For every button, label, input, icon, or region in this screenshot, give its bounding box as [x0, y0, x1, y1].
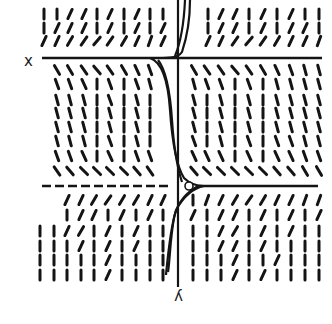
slope-segment [247, 79, 250, 88]
slope-segment [136, 122, 139, 132]
slope-segment [193, 95, 196, 105]
x-axis-label: x [24, 52, 33, 70]
slope-segment [94, 37, 100, 45]
slope-segment [203, 167, 210, 174]
slope-segment [233, 255, 237, 264]
slope-segment [219, 241, 223, 250]
slope-segment [192, 66, 197, 75]
slope-segment [149, 79, 152, 89]
slope-segment [245, 167, 252, 174]
slope-segment [81, 37, 87, 45]
slope-segment [304, 65, 307, 75]
slope-segment [107, 37, 113, 45]
slope-segment [288, 167, 294, 175]
slope-segment [147, 167, 153, 175]
slope-segment [289, 9, 293, 18]
slope-segment [276, 79, 279, 89]
slope-segment [161, 195, 165, 204]
slope-segment [82, 9, 86, 18]
slope-segment [81, 66, 87, 74]
slope-segment [246, 196, 252, 204]
slope-segment [289, 23, 293, 32]
slope-segment [122, 37, 127, 46]
slope-segment [247, 136, 250, 145]
slope-segment [318, 65, 321, 75]
slope-segment [191, 210, 195, 219]
slope-segment [289, 136, 292, 145]
slope-segment [82, 23, 86, 32]
slope-segment [317, 36, 320, 45]
slope-segment [261, 270, 265, 279]
slope-segment [79, 241, 83, 250]
slope-segment [233, 270, 237, 279]
slope-segment [261, 226, 265, 235]
slope-segment [219, 23, 223, 32]
slope-segment [148, 151, 151, 160]
slope-segment [92, 210, 96, 219]
slope-segment [136, 108, 139, 118]
slope-segment [205, 195, 208, 204]
slope-segment [67, 167, 73, 175]
slope-segment [261, 66, 266, 75]
slope-segment [317, 210, 321, 219]
slope-segment [246, 37, 252, 45]
slope-segment [148, 65, 151, 74]
slope-segment [220, 136, 223, 146]
slope-segment [191, 167, 197, 175]
slope-segment [54, 167, 60, 175]
slope-segment [233, 9, 237, 18]
slope-segment [108, 151, 112, 160]
slope-segment [275, 37, 280, 46]
slope-segment [55, 23, 59, 32]
slope-segment [275, 151, 279, 160]
slope-segment [55, 66, 60, 75]
slope-segment [148, 210, 152, 219]
slope-segment [148, 36, 151, 45]
slope-segment [148, 195, 152, 204]
slope-segment [220, 95, 223, 105]
slope-segment [134, 167, 140, 175]
slope-segment [79, 227, 84, 236]
slope-segment [109, 122, 112, 132]
slope-segment [290, 95, 293, 105]
slope-segment [304, 95, 307, 105]
slope-segment [65, 195, 69, 204]
slope-segment [79, 195, 83, 204]
slope-segment [304, 122, 307, 132]
slope-segment [317, 195, 320, 204]
slope-segment [55, 151, 58, 160]
slope-segment [193, 108, 196, 118]
slope-segment [94, 66, 100, 74]
slope-segment [231, 167, 238, 174]
slope-segment [161, 23, 165, 32]
slope-segment [106, 270, 110, 279]
slope-segment [80, 167, 87, 174]
slope-segment [289, 65, 292, 74]
slope-segment [219, 226, 223, 235]
slope-segment [261, 210, 265, 219]
slope-segment [304, 136, 307, 146]
slope-segment [135, 23, 139, 32]
slope-segment [218, 66, 224, 74]
slope-segment [105, 196, 111, 204]
slope-segment [108, 23, 112, 32]
slope-segment [106, 241, 110, 250]
slope-segment [317, 167, 322, 176]
slope-segment [134, 196, 139, 205]
slope-segment [248, 108, 251, 118]
slope-segment [303, 167, 308, 176]
slope-segment [68, 23, 72, 32]
slope-segment [120, 196, 125, 205]
slope-segment [318, 108, 321, 118]
slope-segment [108, 79, 111, 88]
slope-segment [304, 79, 307, 89]
slope-segment [276, 95, 279, 105]
slope-segment [56, 95, 59, 105]
slope-segment [68, 79, 71, 88]
slope-segment [318, 79, 321, 89]
slope-segment [55, 79, 58, 88]
slope-segment [108, 136, 111, 145]
slope-segment [161, 36, 165, 45]
slope-segment [136, 136, 139, 146]
slope-segment [135, 36, 139, 45]
